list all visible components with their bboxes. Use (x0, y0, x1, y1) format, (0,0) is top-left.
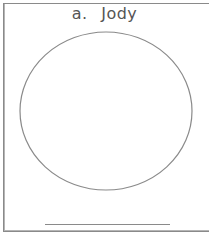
circle-shape (0, 0, 209, 236)
answer-line[interactable] (45, 224, 170, 225)
